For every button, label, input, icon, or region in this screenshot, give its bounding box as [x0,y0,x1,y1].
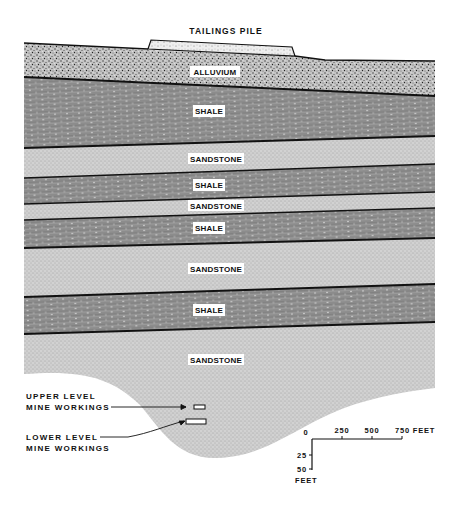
label-sandstone-3: SANDSTONE [188,263,244,274]
label-alluvium: ALLUVIUM [190,66,240,77]
scale-bar: 0 250 500 750 FEET 25 50 FEET [295,426,435,485]
svg-text:SANDSTONE: SANDSTONE [190,265,242,274]
tailings-pile-title: TAILINGS PILE [189,26,262,36]
svg-text:SHALE: SHALE [195,107,224,116]
label-shale-1: SHALE [193,105,225,117]
label-shale-4: SHALE [193,304,225,316]
svg-text:SHALE: SHALE [195,224,224,233]
scale-v-unit: FEET [295,476,317,485]
scale-h-tick-750: 750 FEET [395,426,435,435]
scale-v-tick-25: 25 [297,451,307,460]
svg-text:SANDSTONE: SANDSTONE [190,356,242,365]
upper-mine-label-line1: UPPER LEVEL [26,392,96,401]
label-sandstone-4: SANDSTONE [188,354,244,365]
scale-h-tick-250: 250 [335,426,350,435]
scale-v-tick-50: 50 [297,465,307,474]
svg-text:SANDSTONE: SANDSTONE [190,155,242,164]
label-shale-3: SHALE [193,222,225,234]
lower-mine-label-line2: MINE WORKINGS [26,444,110,453]
lower-mine-label-line1: LOWER LEVEL [26,433,98,442]
svg-text:ALLUVIUM: ALLUVIUM [194,68,237,77]
geologic-cross-section: TAILINGS PILE ALLUVIUM SHALE SA [0,0,456,507]
scale-h-tick-0: 0 [304,428,309,437]
label-sandstone-2: SANDSTONE [188,200,244,211]
label-sandstone-1: SANDSTONE [188,153,244,164]
upper-mine-label-line2: MINE WORKINGS [26,403,110,412]
upper-mine-working [194,405,205,409]
svg-text:SHALE: SHALE [195,181,224,190]
lower-mine-working [186,419,206,424]
svg-text:SHALE: SHALE [195,306,224,315]
scale-h-tick-500: 500 [365,426,380,435]
label-shale-2: SHALE [193,179,225,191]
svg-text:SANDSTONE: SANDSTONE [190,202,242,211]
